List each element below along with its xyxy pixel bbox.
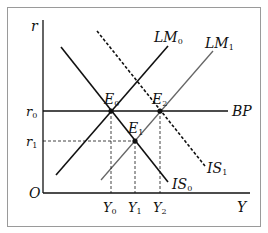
tick-y2: Y2 [153, 200, 167, 216]
origin-label: O [29, 185, 41, 201]
x-axis-label: Y [237, 199, 248, 215]
point-e2 [157, 108, 162, 113]
label-bp: BP [231, 103, 252, 119]
label-e0: E0 [103, 91, 119, 108]
is0-curve [61, 47, 168, 182]
label-lm1: LM1 [204, 35, 234, 52]
label-e2: E2 [151, 91, 167, 108]
tick-r0: r0 [26, 104, 37, 120]
tick-y1: Y1 [128, 200, 142, 216]
tick-r1: r1 [26, 134, 37, 150]
lm1-curve [101, 51, 213, 180]
label-lm0: LM0 [153, 29, 183, 46]
point-e0 [108, 108, 113, 113]
label-is0: IS0 [171, 176, 192, 193]
point-e1 [132, 138, 137, 143]
tick-y0: Y0 [103, 200, 117, 216]
diagram-frame: r Y O r0 r1 Y0 Y1 Y2 LM0 LM1 BP IS0 IS1 … [0, 0, 268, 233]
y-axis-label: r [31, 18, 39, 34]
label-is1: IS1 [206, 160, 227, 177]
label-e1: E1 [127, 120, 143, 137]
